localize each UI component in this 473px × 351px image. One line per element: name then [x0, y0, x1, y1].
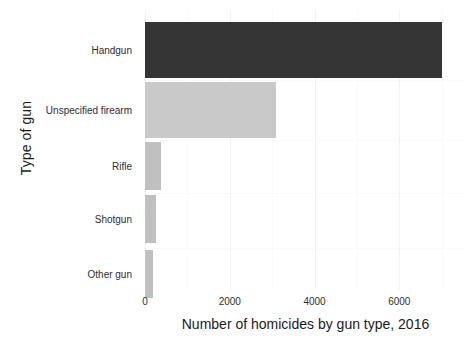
gridline-horizontal — [145, 248, 465, 249]
y-axis-tick-labels: HandgunUnspecified firearmRifleShotgunOt… — [18, 10, 138, 290]
y-axis-tick-label: Shotgun — [95, 214, 132, 225]
y-axis-tick-label: Rifle — [112, 161, 132, 172]
gridline-minor — [442, 10, 443, 290]
bar — [145, 250, 153, 298]
bar — [145, 22, 442, 78]
bar — [145, 142, 161, 190]
y-axis-tick-label: Unspecified firearm — [46, 105, 132, 116]
x-axis-tick-label: 4000 — [303, 296, 325, 307]
bar — [145, 195, 156, 243]
x-axis-title: Number of homicides by gun type, 2016 — [0, 316, 473, 332]
x-axis-tick-label: 0 — [142, 296, 148, 307]
x-axis-tick-label: 6000 — [388, 296, 410, 307]
y-axis-tick-label: Other gun — [88, 269, 132, 280]
gridline-horizontal — [145, 193, 465, 194]
bar — [145, 82, 276, 138]
gridline-horizontal — [145, 140, 465, 141]
plot-area — [145, 10, 465, 290]
gridline-horizontal — [145, 80, 465, 81]
bar-chart: Type of gun HandgunUnspecified firearmRi… — [0, 0, 473, 351]
x-axis-tick-label: 2000 — [219, 296, 241, 307]
x-axis-tick-labels: 0200040006000 — [145, 296, 465, 310]
y-axis-tick-label: Handgun — [91, 45, 132, 56]
